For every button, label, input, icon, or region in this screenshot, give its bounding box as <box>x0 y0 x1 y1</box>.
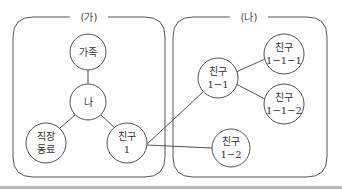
node-friend1-1: 친구 1−1 <box>198 58 238 98</box>
group-label-na: (나) <box>241 12 258 23</box>
svg-text:친구: 친구 <box>118 131 136 142</box>
svg-text:나: 나 <box>84 97 93 108</box>
edge-friend1-friend1_2 <box>146 145 212 148</box>
svg-text:친구: 친구 <box>222 136 240 147</box>
network-diagram: (가) (나) 가족 나 직장 동료 친구 1 친구 1−1 <box>0 0 342 190</box>
edge-me-coworker <box>60 115 75 128</box>
edge-me-friend1 <box>101 115 115 128</box>
node-friend1-2: 친구 1−2 <box>212 129 250 167</box>
svg-text:동료: 동료 <box>37 144 55 155</box>
node-family: 가족 <box>70 34 106 70</box>
svg-text:친구: 친구 <box>275 92 293 103</box>
node-coworker: 직장 동료 <box>26 123 66 163</box>
edge-friend1_1-friend1_1_1 <box>236 59 265 72</box>
node-me: 나 <box>70 84 106 120</box>
svg-text:1−1−2: 1−1−2 <box>266 105 302 116</box>
edge-friend1_1-friend1_1_2 <box>236 84 265 99</box>
svg-text:1−2: 1−2 <box>220 149 241 160</box>
node-friend1: 친구 1 <box>107 123 147 163</box>
svg-text:1−1: 1−1 <box>207 79 228 90</box>
svg-text:1−1−1: 1−1−1 <box>266 55 302 66</box>
svg-text:가족: 가족 <box>79 47 97 58</box>
node-friend1-1-1: 친구 1−1−1 <box>264 34 304 74</box>
group-label-ga: (가) <box>81 12 98 23</box>
bottom-divider <box>0 186 342 189</box>
svg-text:친구: 친구 <box>275 42 293 53</box>
svg-text:1: 1 <box>124 144 130 155</box>
edge-friend1-friend1_1 <box>146 92 203 145</box>
svg-text:직장: 직장 <box>37 131 55 142</box>
svg-text:친구: 친구 <box>209 66 227 77</box>
node-friend1-1-2: 친구 1−1−2 <box>264 84 304 124</box>
